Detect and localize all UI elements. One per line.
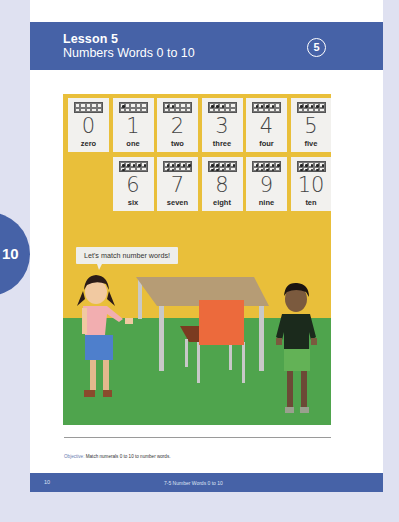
page-footer: 10 7-5 Number Words 0 to 10 xyxy=(30,473,383,492)
objective-text: Match numerals 0 to 10 to number words. xyxy=(86,454,171,459)
divider xyxy=(64,437,331,438)
footer-title: 7-5 Number Words 0 to 10 xyxy=(164,480,223,486)
objective-label: Objective: xyxy=(64,454,84,459)
lesson-label: Lesson 5 xyxy=(63,32,118,46)
lesson-illustration: 0zero1one2two3three4four5five6six7seven8… xyxy=(63,94,331,425)
lesson-title: Numbers Words 0 to 10 xyxy=(63,46,195,60)
footer-page-number: 10 xyxy=(44,479,50,485)
page-tab-label: 10 xyxy=(2,245,19,262)
objective: Objective: Match numerals 0 to 10 to num… xyxy=(64,454,171,459)
chair-icon xyxy=(180,300,245,383)
girl-figure xyxy=(77,275,133,397)
classroom-scene xyxy=(63,94,331,425)
boy-figure xyxy=(276,283,317,413)
page-tab: 10 xyxy=(0,212,30,296)
lesson-number-badge: 5 xyxy=(307,38,326,57)
lesson-header: Lesson 5 Numbers Words 0 to 10 5 xyxy=(30,22,383,70)
